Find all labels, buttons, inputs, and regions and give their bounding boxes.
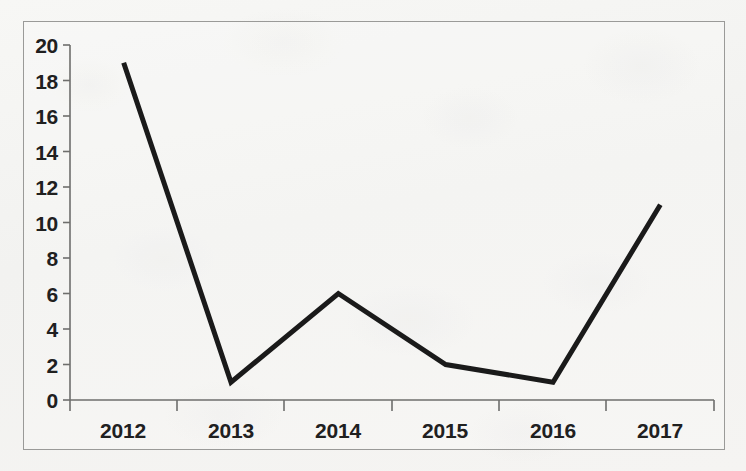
x-tick-label: 2017 <box>605 420 715 441</box>
y-tick-label: 16 <box>18 106 58 127</box>
y-tick-label: 8 <box>18 248 58 269</box>
y-tick-label: 6 <box>18 284 58 305</box>
data-series-line <box>124 63 661 383</box>
y-tick-label: 14 <box>18 142 58 163</box>
x-axis-ticks <box>70 400 714 411</box>
x-tick-label: 2013 <box>176 420 286 441</box>
y-tick-label: 12 <box>18 177 58 198</box>
x-tick-label: 2012 <box>68 420 178 441</box>
y-tick-label: 2 <box>18 355 58 376</box>
y-tick-label: 0 <box>18 390 58 411</box>
line-chart-plot <box>0 0 746 471</box>
x-tick-label: 2014 <box>283 420 393 441</box>
y-tick-label: 4 <box>18 319 58 340</box>
y-tick-label: 10 <box>18 213 58 234</box>
x-tick-label: 2016 <box>498 420 608 441</box>
y-tick-label: 20 <box>18 35 58 56</box>
y-tick-label: 18 <box>18 71 58 92</box>
x-tick-label: 2015 <box>390 420 500 441</box>
y-axis-ticks <box>63 45 70 400</box>
